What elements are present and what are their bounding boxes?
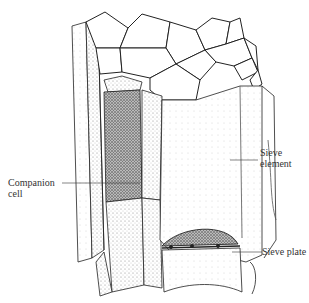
label-line: Companion — [8, 177, 55, 188]
label-sieve-plate: Sieve plate — [262, 246, 306, 257]
label-companion-cell: Companion cell — [8, 177, 55, 199]
label-line: Sieve — [260, 147, 292, 158]
label-line: cell — [8, 188, 55, 199]
label-line: element — [260, 158, 292, 169]
label-sieve-element: Sieve element — [260, 147, 292, 169]
